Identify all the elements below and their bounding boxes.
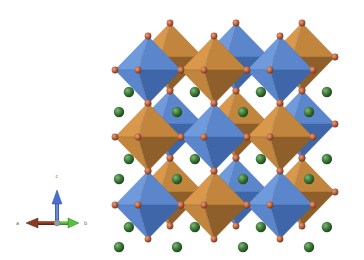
b-axis-label: b — [84, 220, 87, 226]
anion-sphere — [299, 223, 306, 230]
anion-sphere — [267, 67, 274, 74]
cation-sphere — [322, 154, 332, 164]
axis-triad: c a b — [16, 173, 87, 228]
anion-sphere — [233, 155, 240, 162]
cation-sphere — [322, 87, 332, 97]
anion-sphere — [211, 236, 218, 243]
anion-sphere — [145, 168, 152, 175]
cation-sphere — [238, 107, 248, 117]
a-axis-arrow-icon — [26, 218, 56, 228]
anion-sphere — [167, 20, 174, 27]
cation-sphere — [256, 222, 266, 232]
cation-sphere — [124, 222, 134, 232]
anion-sphere — [310, 202, 317, 209]
anion-sphere — [267, 134, 274, 141]
cation-sphere — [172, 174, 182, 184]
anion-sphere — [299, 88, 306, 95]
anion-sphere — [201, 67, 208, 74]
cation-sphere — [190, 154, 200, 164]
anion-sphere — [277, 33, 284, 40]
anion-sphere — [112, 134, 119, 141]
cation-sphere — [114, 107, 124, 117]
anion-sphere — [277, 100, 284, 107]
cation-sphere — [190, 222, 200, 232]
crystal-structure-figure: c a b — [0, 0, 364, 260]
anion-sphere — [145, 100, 152, 107]
anion-sphere — [299, 155, 306, 162]
anion-sphere — [178, 202, 185, 209]
anion-sphere — [267, 202, 274, 209]
anion-sphere — [244, 134, 251, 141]
anion-sphere — [201, 134, 208, 141]
anion-sphere — [211, 33, 218, 40]
cation-sphere — [256, 87, 266, 97]
anion-sphere — [112, 202, 119, 209]
anion-sphere — [310, 134, 317, 141]
cation-sphere — [124, 154, 134, 164]
anion-sphere — [178, 67, 185, 74]
cation-sphere — [114, 242, 124, 252]
anion-sphere — [332, 121, 339, 128]
anion-sphere — [135, 202, 142, 209]
anion-sphere — [178, 134, 185, 141]
cation-sphere — [124, 87, 134, 97]
anion-sphere — [233, 223, 240, 230]
cation-sphere — [238, 242, 248, 252]
anion-sphere — [332, 54, 339, 61]
b-axis-arrow-icon — [58, 218, 79, 228]
a-axis-label: a — [16, 220, 19, 226]
anion-sphere — [299, 20, 306, 27]
anion-sphere — [233, 88, 240, 95]
anion-sphere — [135, 67, 142, 74]
front-octahedra-layer — [112, 33, 317, 243]
cation-sphere — [238, 174, 248, 184]
cation-sphere — [304, 242, 314, 252]
cation-sphere — [322, 222, 332, 232]
cation-sphere — [256, 154, 266, 164]
cation-sphere — [190, 87, 200, 97]
cation-sphere — [172, 242, 182, 252]
anion-sphere — [211, 100, 218, 107]
anion-sphere — [145, 33, 152, 40]
anion-sphere — [332, 189, 339, 196]
anion-sphere — [310, 67, 317, 74]
cation-sphere — [172, 107, 182, 117]
cation-sphere — [304, 174, 314, 184]
axis-origin — [54, 220, 60, 226]
anion-sphere — [201, 202, 208, 209]
anion-sphere — [277, 236, 284, 243]
cation-sphere — [114, 174, 124, 184]
anion-sphere — [244, 67, 251, 74]
cation-sphere — [304, 107, 314, 117]
anion-sphere — [244, 202, 251, 209]
anion-sphere — [167, 223, 174, 230]
anion-sphere — [145, 236, 152, 243]
anion-sphere — [112, 67, 119, 74]
c-axis-arrow-icon — [52, 190, 62, 223]
anion-sphere — [233, 20, 240, 27]
anion-sphere — [135, 134, 142, 141]
anion-sphere — [277, 168, 284, 175]
c-axis-label: c — [56, 173, 59, 179]
anion-sphere — [167, 155, 174, 162]
anion-sphere — [167, 88, 174, 95]
anion-sphere — [211, 168, 218, 175]
